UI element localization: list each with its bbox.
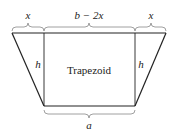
top-middle-brace: [44, 23, 135, 31]
bottom-brace: [44, 110, 135, 118]
label-bottom-a: a: [86, 119, 92, 131]
diagram-canvas: x b − 2x x h h Trapezoid a: [0, 0, 176, 137]
label-right-h: h: [138, 58, 144, 70]
top-right-brace: [135, 23, 166, 31]
label-top-middle: b − 2x: [75, 9, 104, 21]
label-top-left-x: x: [25, 9, 31, 21]
label-shape-name: Trapezoid: [67, 64, 112, 76]
label-left-h: h: [35, 58, 41, 70]
top-left-brace: [12, 23, 44, 31]
label-top-right-x: x: [148, 9, 154, 21]
trapezoid-diagram: x b − 2x x h h Trapezoid a: [0, 0, 176, 137]
